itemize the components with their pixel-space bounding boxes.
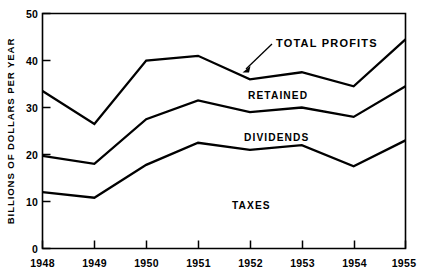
total-profits-arrow-shaft (246, 44, 272, 69)
x-tick-label-1955: 1955 (392, 257, 417, 269)
series-label-retained: RETAINED (248, 90, 308, 101)
y-tick-label-50: 50 (26, 8, 38, 20)
total-profits-arrow-head (243, 66, 251, 73)
chart-canvas: 50 40 30 20 10 0 BILLIONS OF DOLLARS PER… (0, 0, 421, 277)
x-tick-label-1950: 1950 (134, 257, 159, 269)
total-profits-annotation (243, 44, 273, 73)
series-label-dividends: DIVIDENDS (244, 132, 309, 143)
y-tick-label-10: 10 (26, 196, 38, 208)
x-tick-label-1951: 1951 (186, 257, 211, 269)
y-tick-label-20: 20 (26, 149, 38, 161)
y-axis-tick-labels: 50 40 30 20 10 0 (26, 8, 38, 255)
x-tick-label-1954: 1954 (342, 257, 367, 269)
x-tick-label-1949: 1949 (82, 257, 107, 269)
series-line-total-profits (43, 39, 406, 124)
series-label-total-profits: TOTAL PROFITS (276, 37, 378, 49)
y-tick-label-30: 30 (26, 102, 38, 114)
y-axis-ticks (43, 14, 51, 249)
data-series-group (43, 39, 406, 197)
x-tick-label-1952: 1952 (238, 257, 263, 269)
series-line-dividends (43, 140, 406, 197)
x-tick-label-1953: 1953 (290, 257, 315, 269)
x-axis-tick-labels: 1948 1949 1950 1951 1952 1953 1954 1955 (30, 257, 416, 269)
y-tick-label-0: 0 (32, 243, 38, 255)
series-line-retained (43, 86, 406, 164)
y-tick-label-40: 40 (26, 55, 38, 67)
chart-figure: 50 40 30 20 10 0 BILLIONS OF DOLLARS PER… (0, 0, 421, 277)
series-label-taxes: TAXES (232, 200, 271, 211)
x-tick-label-1948: 1948 (30, 257, 55, 269)
x-axis-ticks (43, 241, 406, 249)
y-axis-title: BILLIONS OF DOLLARS PER YEAR (5, 38, 16, 225)
